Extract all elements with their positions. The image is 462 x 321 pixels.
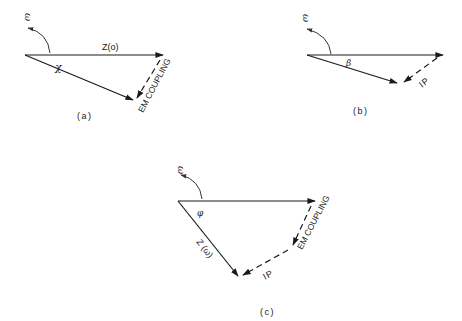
panel-b: ω β IP (b)	[301, 14, 443, 116]
z-omega-label: Z (ω)	[194, 237, 215, 260]
z-omega-vector	[178, 201, 238, 276]
caption-a: (a)	[77, 111, 93, 121]
ip-label: IP	[261, 268, 275, 282]
caption-c: (c)	[260, 307, 275, 317]
resultant-vector	[25, 55, 133, 100]
rotation-arrow-icon	[307, 29, 331, 54]
panel-a: ω Z(o) χ EM COUPLING (a)	[23, 13, 173, 121]
phi-angle-label: φ	[197, 208, 204, 218]
resultant-vector	[307, 55, 397, 83]
panel-c: ω φ Z (ω) EM COUPLING IP (c)	[176, 166, 332, 317]
omega-label: ω	[176, 166, 187, 174]
rotation-arrow-icon	[28, 28, 50, 53]
vector-diagram: ω Z(o) χ EM COUPLING (a) ω β IP (b) ω φ …	[0, 0, 462, 321]
caption-b: (b)	[353, 106, 369, 116]
rotation-arrow-icon	[181, 175, 202, 199]
em-coupling-label: EM COUPLING	[295, 194, 332, 251]
z-zero-label: Z(o)	[102, 42, 119, 52]
omega-label: ω	[23, 13, 34, 21]
chi-angle-label: χ	[54, 61, 63, 74]
em-coupling-label: EM COUPLING	[136, 57, 173, 114]
omega-label: ω	[301, 14, 312, 22]
ip-label: IP	[417, 75, 431, 89]
beta-angle-label: β	[345, 58, 351, 68]
